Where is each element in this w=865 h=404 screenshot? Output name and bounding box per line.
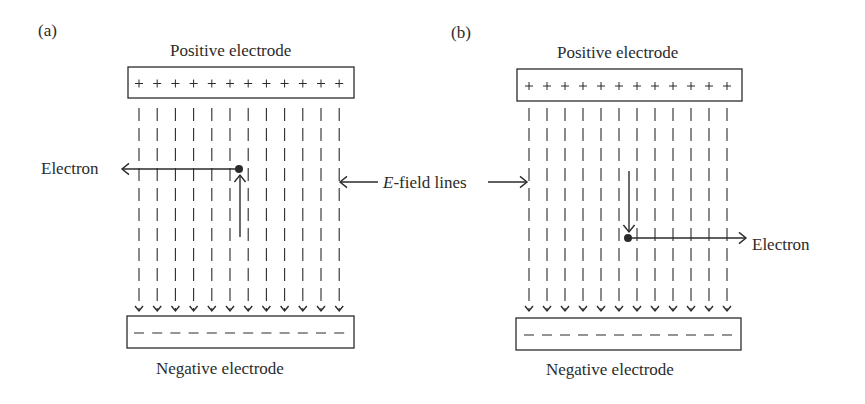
electron-dot-icon xyxy=(235,165,243,173)
panel-b-tag: (b) xyxy=(451,24,471,41)
negative-electrode-plate xyxy=(516,318,741,350)
positive-electrode-plate xyxy=(128,67,354,98)
panel-a-positive-electrode-label: Positive electrode xyxy=(170,42,291,59)
e-field-lines-label: E-field lines xyxy=(383,174,467,191)
panel-b-positive-electrode-label: Positive electrode xyxy=(557,44,678,61)
negative-electrode-plate xyxy=(127,316,354,348)
panel-b-negative-electrode-label: Negative electrode xyxy=(546,361,674,378)
panel-b-electron-label: Electron xyxy=(752,236,810,253)
panel-b xyxy=(516,69,746,350)
panel-a-electron-label: Electron xyxy=(41,160,99,177)
panel-a xyxy=(122,67,354,348)
e-field-lines-text: -field lines xyxy=(393,173,466,192)
panel-a-tag: (a) xyxy=(38,22,57,39)
positive-electrode-plate xyxy=(517,69,742,101)
e-symbol: E xyxy=(383,173,393,192)
electron-dot-icon xyxy=(624,234,632,242)
electric-field-diagram xyxy=(0,0,865,404)
panel-a-negative-electrode-label: Negative electrode xyxy=(156,360,284,377)
